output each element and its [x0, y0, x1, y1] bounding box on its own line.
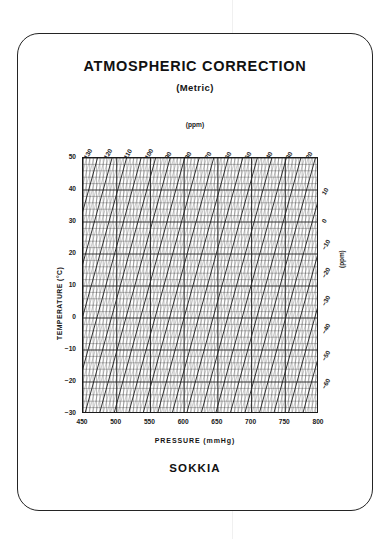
y-tick-label: −10 — [46, 345, 76, 352]
x-axis-label: PRESSURE (mmHg) — [0, 437, 390, 444]
y-tick-label: 50 — [46, 153, 76, 160]
x-tick-label: 750 — [272, 418, 296, 425]
nomogram-grid — [83, 158, 318, 413]
y-tick-label: −30 — [46, 409, 76, 416]
y-tick-label: 10 — [46, 281, 76, 288]
x-tick-label: 600 — [171, 418, 195, 425]
brand-logo: SOKKIA — [0, 462, 390, 474]
x-tick-label: 700 — [239, 418, 263, 425]
x-tick-label: 550 — [137, 418, 161, 425]
y-tick-label: 0 — [46, 313, 76, 320]
x-tick-label: 450 — [70, 418, 94, 425]
y-tick-label: −20 — [46, 377, 76, 384]
plot-area — [82, 157, 318, 413]
page-subtitle: (Metric) — [0, 82, 390, 93]
top-axis-label: (ppm) — [0, 121, 390, 128]
x-tick-label: 650 — [205, 418, 229, 425]
nomogram-plot — [82, 157, 318, 413]
y-axis-label: TEMPERATURE (°C) — [56, 267, 63, 340]
right-axis-label: (ppm) — [338, 250, 345, 268]
x-tick-label: 500 — [104, 418, 128, 425]
y-tick-label: 40 — [46, 185, 76, 192]
y-tick-label: 30 — [46, 217, 76, 224]
y-tick-label: 20 — [46, 249, 76, 256]
page-title: ATMOSPHERIC CORRECTION — [0, 58, 390, 74]
x-tick-label: 800 — [306, 418, 330, 425]
